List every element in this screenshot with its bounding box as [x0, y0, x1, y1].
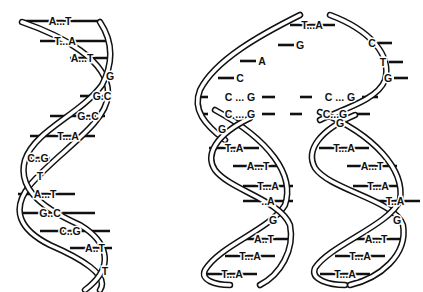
left-daughter-pair: T..A: [225, 142, 244, 154]
right-daughter-pair: T...A: [367, 180, 389, 192]
right-daughter-pair: G: [393, 214, 401, 226]
left-daughter-pair: A..T: [254, 233, 274, 245]
unpaired-base: C: [236, 72, 244, 84]
right-daughter-pair: T...A: [334, 268, 356, 280]
left-daughter-pair: T...A: [221, 268, 243, 280]
left-daughter-pair: T...A: [239, 250, 261, 262]
left-daughter-pair: T...A: [257, 180, 279, 192]
left-daughter-pair: ..A: [261, 195, 275, 207]
base-pair-label: G.C: [93, 90, 112, 102]
fork-middle-right: C ... G: [325, 91, 355, 103]
unpaired-base: C: [368, 37, 376, 49]
base-pair-label: G..C: [77, 110, 99, 122]
unpaired-base: G: [384, 72, 392, 84]
base-pair-label: A..T: [85, 242, 105, 254]
right-daughter-pair: A...T: [365, 233, 388, 245]
parent-helix: A...TT...AA...TGG.CG..CT...AC..GTA...TG.…: [18, 15, 114, 290]
base-pair-label: G..C: [39, 207, 61, 219]
left-daughter-pair: G: [269, 214, 277, 226]
right-daughter-pair: T..A: [386, 195, 405, 207]
base-pair-label: C..G: [27, 152, 49, 164]
base-pair-label: A...T: [71, 52, 94, 64]
base-pair-label: T...A: [54, 35, 76, 47]
base-pair-label: C..G: [59, 225, 81, 237]
replication-fork: T...AGACCTGC ... GC ... GC ... GC...GGT.…: [198, 15, 420, 285]
dna-diagram: A...TT...AA...TGG.CG..CT...AC..GTA...TG.…: [0, 0, 423, 292]
base-pair-label: T: [37, 170, 44, 182]
base-pair-label: A...T: [49, 15, 72, 27]
left-daughter-pair: G: [218, 123, 226, 135]
fork-top-pair: T...A: [301, 19, 323, 31]
right-daughter-pair: G: [336, 117, 344, 129]
left-daughter-pair: A...T: [247, 160, 270, 172]
base-pair-label: T...A: [57, 130, 79, 142]
unpaired-base: A: [258, 55, 266, 67]
unpaired-base: T: [380, 56, 387, 68]
right-daughter-pair: T...A: [333, 142, 355, 154]
fork-middle-left: C ... G: [225, 108, 255, 120]
base-pair-label: A...T: [34, 188, 57, 200]
unpaired-base: G: [296, 39, 304, 51]
right-daughter-pair: A...T: [361, 160, 384, 172]
right-daughter-pair: T...A: [349, 250, 371, 262]
base-pair-label: G: [106, 70, 114, 82]
base-pair-label: T: [102, 265, 109, 277]
fork-middle-left: C ... G: [225, 91, 255, 103]
